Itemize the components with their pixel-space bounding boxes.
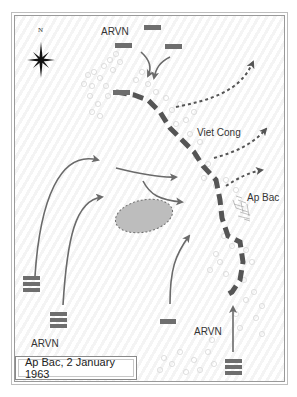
label-arvn-southwest: ARVN: [31, 338, 59, 349]
compass-rose-icon: [27, 42, 55, 78]
label-viet-cong: Viet Cong: [197, 127, 241, 138]
unit-marker: [113, 90, 130, 95]
map-caption: Ap Bac, 2 January 1963: [15, 356, 137, 380]
unit-marker: [115, 43, 132, 48]
vc-withdrawal-arrows: [176, 62, 266, 186]
map-title: Ap Bac, 2 January 1963: [25, 356, 136, 380]
unit-marker: [144, 25, 161, 30]
unit-marker: [165, 44, 182, 49]
vegetation: [81, 51, 264, 374]
viet-cong-positions: [116, 92, 243, 296]
unit-marker-stack-sw2: [50, 312, 67, 328]
unit-marker: [160, 319, 176, 324]
label-arvn-south: ARVN: [194, 326, 222, 337]
marsh-area: [112, 194, 175, 237]
label-arvn-north: ARVN: [101, 26, 129, 37]
unit-marker-stack-s: [225, 359, 242, 375]
label-ap-bac: Ap Bac: [247, 192, 279, 203]
unit-marker-stack-sw1: [23, 276, 40, 292]
compass-north-label: N: [38, 26, 43, 34]
arvn-units: [23, 25, 242, 375]
